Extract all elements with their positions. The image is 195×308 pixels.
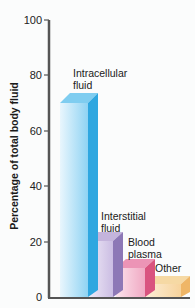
label-intracellular: Intracellular fluid (73, 67, 127, 91)
y-tick-80: 80 (20, 69, 42, 81)
label-blood-plasma: Blood plasma (128, 236, 162, 260)
label-line: Intracellular (73, 67, 127, 79)
y-tick-60: 60 (20, 125, 42, 137)
y-axis-label: Percentage of total body fluid (8, 76, 20, 236)
label-line: Interstitial (101, 210, 146, 222)
y-tick-100: 100 (20, 14, 42, 26)
label-line: fluid (101, 222, 146, 234)
y-tick-20: 20 (20, 236, 42, 248)
y-tick-40: 40 (20, 180, 42, 192)
label-other: Other (155, 262, 181, 274)
label-interstitial: Interstitial fluid (101, 210, 146, 234)
bar-intracellular (60, 93, 98, 297)
y-tick-0: 0 (20, 291, 42, 303)
label-line: Blood (128, 236, 162, 248)
body-fluid-bar-chart: Percentage of total body fluid 100 80 60… (0, 0, 195, 308)
label-line: Other (155, 262, 181, 274)
label-line: fluid (73, 79, 127, 91)
label-line: plasma (128, 248, 162, 260)
